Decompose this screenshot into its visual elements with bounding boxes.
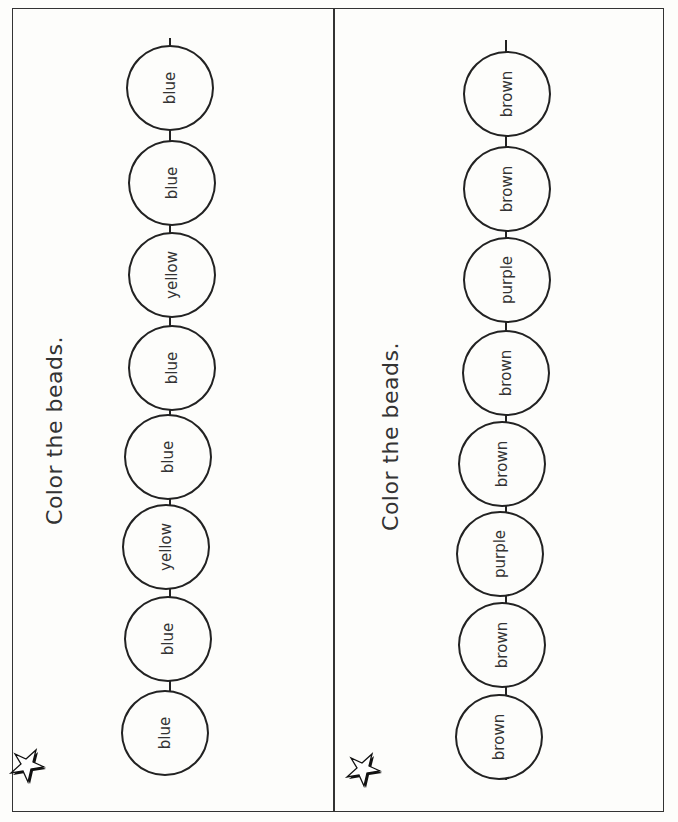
- worksheet-frame: [12, 8, 664, 812]
- bead-label: purple: [491, 530, 509, 578]
- bead-label: blue: [156, 717, 174, 749]
- bead-8[interactable]: blue: [121, 690, 209, 776]
- star-icon: [6, 748, 46, 788]
- bead-8[interactable]: brown: [455, 694, 543, 780]
- instruction-text: Color the beads.: [378, 342, 403, 531]
- bead-1[interactable]: blue: [126, 45, 214, 131]
- bead-label: yellow: [157, 523, 175, 571]
- bead-label: blue: [159, 623, 177, 655]
- bead-label: brown: [490, 714, 508, 760]
- bead-label: blue: [159, 441, 177, 473]
- instruction-text: Color the beads.: [42, 336, 67, 525]
- bead-label: blue: [163, 352, 181, 384]
- bead-6[interactable]: yellow: [122, 504, 210, 590]
- bead-label: brown: [493, 441, 511, 487]
- bead-2[interactable]: brown: [463, 146, 551, 232]
- panel-divider: [333, 8, 335, 812]
- bead-label: brown: [497, 350, 515, 396]
- star-icon: [342, 752, 382, 792]
- bead-7[interactable]: blue: [124, 596, 212, 682]
- bead-4[interactable]: blue: [128, 325, 216, 411]
- bead-3[interactable]: purple: [463, 237, 551, 323]
- bead-6[interactable]: purple: [456, 511, 544, 597]
- bead-5[interactable]: blue: [124, 414, 212, 500]
- bead-2[interactable]: blue: [128, 140, 216, 226]
- bead-label: brown: [493, 622, 511, 668]
- bead-label: yellow: [163, 251, 181, 299]
- bead-label: blue: [161, 72, 179, 104]
- bead-label: blue: [163, 167, 181, 199]
- bead-label: brown: [498, 71, 516, 117]
- bead-5[interactable]: brown: [458, 421, 546, 507]
- bead-label: purple: [498, 256, 516, 304]
- bead-4[interactable]: brown: [462, 330, 550, 416]
- bead-3[interactable]: yellow: [128, 232, 216, 318]
- bead-label: brown: [498, 166, 516, 212]
- bead-1[interactable]: brown: [463, 51, 551, 137]
- bead-7[interactable]: brown: [458, 602, 546, 688]
